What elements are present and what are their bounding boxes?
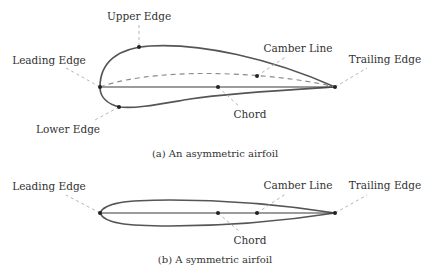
airfoil-figure: Upper Edge Leading Edge Lower Edge Cambe…	[0, 0, 431, 278]
leader-lower-edge	[93, 107, 119, 121]
camber-point	[255, 74, 259, 78]
asymmetric-airfoil-outline	[100, 46, 335, 108]
label-lower-edge: Lower Edge	[36, 123, 100, 135]
leader-leading-edge-b	[66, 195, 100, 213]
label-chord: Chord	[234, 108, 267, 120]
leader-trailing-edge-b	[335, 195, 367, 213]
label-leading-edge-b: Leading Edge	[12, 180, 86, 192]
asymmetric-airfoil-diagram: Upper Edge Leading Edge Lower Edge Cambe…	[12, 10, 421, 159]
trailing-edge-point	[333, 85, 337, 89]
leader-leading-edge	[66, 68, 100, 87]
label-chord-b: Chord	[234, 234, 267, 246]
chord-point	[216, 85, 220, 89]
leader-camber-line-b	[257, 193, 287, 213]
label-camber-line-b: Camber Line	[264, 179, 333, 191]
upper-edge-point	[137, 45, 141, 49]
caption-asymmetric: (a) An asymmetric airfoil	[152, 148, 278, 159]
caption-symmetric: (b) A symmetric airfoil	[158, 254, 272, 265]
leader-chord	[218, 87, 240, 107]
label-camber-line: Camber Line	[264, 42, 333, 54]
symmetric-airfoil-diagram: Leading Edge Camber Line Trailing Edge C…	[12, 179, 421, 265]
leader-trailing-edge	[335, 68, 367, 87]
lower-edge-point	[117, 105, 121, 109]
label-upper-edge: Upper Edge	[107, 10, 171, 22]
label-leading-edge: Leading Edge	[12, 54, 86, 66]
camber-point-b	[255, 211, 259, 215]
trailing-edge-point-b	[333, 211, 337, 215]
label-trailing-edge: Trailing Edge	[349, 53, 422, 65]
asymmetric-camber-line	[100, 74, 335, 87]
leader-chord-b	[218, 213, 240, 232]
leading-edge-point	[98, 85, 102, 89]
leading-edge-point-b	[98, 211, 102, 215]
chord-point-b	[216, 211, 220, 215]
label-trailing-edge-b: Trailing Edge	[349, 179, 422, 191]
